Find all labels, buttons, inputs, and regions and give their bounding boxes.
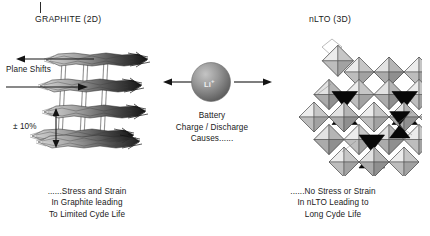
charge-arrow-right	[234, 76, 272, 88]
nlto-caption-line-2: In nLTO Leading to	[258, 197, 408, 208]
battery-process-text: Battery Charge / Discharge Causes......	[150, 110, 274, 145]
nlto-caption-line-1: ......No Stress or Strain	[258, 186, 408, 197]
nlto-caption: ......No Stress or Strain In nLTO Leadin…	[258, 186, 408, 220]
nlto-panel-title: nLTO (3D)	[309, 14, 351, 25]
expansion-double-arrow	[50, 108, 62, 148]
nlto-caption-line-3: Long Cyde Life	[258, 209, 408, 220]
lithium-ion-label: Li+	[204, 76, 215, 90]
graphite-caption-line-1: ......Stress and Strain	[12, 186, 162, 197]
lithium-ion-charge: +	[211, 78, 215, 84]
battery-process-line-3: Causes......	[150, 133, 274, 145]
figure-canvas: GRAPHITE (2D)	[0, 0, 430, 236]
crop-tick-mark	[40, 2, 41, 13]
graphite-panel-title: GRAPHITE (2D)	[35, 14, 101, 25]
plane-shift-arrow-right	[6, 81, 88, 93]
plane-shifts-label: Plane Shifts	[6, 65, 51, 76]
plane-shift-arrow-left	[16, 53, 96, 65]
nlto-polyhedra-cluster	[272, 36, 422, 176]
graphite-caption: ......Stress and Strain In Graphite lead…	[12, 186, 162, 220]
battery-process-line-1: Battery	[150, 110, 274, 122]
graphite-caption-line-2: In Graphite leading	[12, 197, 162, 208]
expansion-percent-label: ± 10%	[13, 122, 37, 133]
battery-process-line-2: Charge / Discharge	[150, 122, 274, 134]
lithium-ion-symbol: Li	[204, 80, 211, 89]
graphite-caption-line-3: To Limited Cyde Life	[12, 209, 162, 220]
